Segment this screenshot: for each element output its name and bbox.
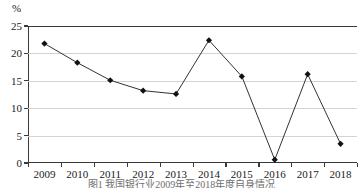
data-point-marker <box>41 40 47 46</box>
data-point-marker <box>173 91 179 97</box>
data-series-line <box>28 26 357 163</box>
x-axis-tick <box>94 163 95 167</box>
x-axis-tick <box>127 163 128 167</box>
x-axis-tick <box>193 163 194 167</box>
y-axis-unit-label: % <box>12 3 21 14</box>
data-point-marker <box>272 157 278 163</box>
y-axis-tick-label: 0 <box>17 158 23 169</box>
x-axis-tick <box>160 163 161 167</box>
chart-figure: % 0510152025 200920102011201220132014201… <box>0 0 363 188</box>
series-polyline <box>44 40 340 159</box>
figure-caption: 图1 我国银行业2009年至2018年度自身情况 <box>0 179 363 188</box>
x-axis-tick <box>258 163 259 167</box>
x-axis-tick <box>28 163 29 167</box>
x-axis-tick <box>225 163 226 167</box>
x-axis-tick <box>61 163 62 167</box>
y-axis-tick-label: 5 <box>17 130 23 141</box>
y-axis-tick-label: 10 <box>11 103 22 114</box>
data-point-marker <box>74 60 80 66</box>
x-axis-tick <box>291 163 292 167</box>
data-point-marker <box>305 71 311 77</box>
y-axis-tick-label: 25 <box>11 21 22 32</box>
x-axis-tick <box>357 163 358 167</box>
y-axis-tick-label: 20 <box>11 48 22 59</box>
plot-area: 0510152025 20092010201120122013201420152… <box>28 26 357 163</box>
data-point-marker <box>107 77 113 83</box>
y-axis-tick-label: 15 <box>11 75 22 86</box>
data-point-marker <box>337 141 343 147</box>
x-axis-tick <box>324 163 325 167</box>
data-point-marker <box>140 88 146 94</box>
